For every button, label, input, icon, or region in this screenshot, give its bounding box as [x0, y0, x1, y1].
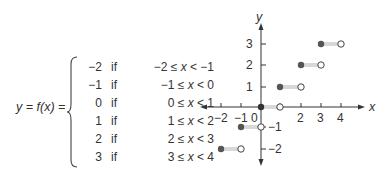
x-tick-label: 2	[297, 111, 304, 125]
arrow-left-icon	[200, 105, 207, 110]
segment	[218, 146, 244, 152]
segment	[277, 84, 304, 90]
y-axis-label: y	[255, 10, 263, 24]
step-segments	[218, 41, 344, 152]
x-tick-label: 4	[337, 111, 344, 125]
x-tick-label: −2	[214, 111, 228, 125]
y-tick-label: 1	[246, 80, 253, 94]
x-tick-label: 3	[317, 111, 324, 125]
y-tick-label: 2	[246, 58, 253, 72]
y-axis	[259, 23, 267, 166]
segment	[258, 104, 283, 110]
y-tick-label: 3	[246, 37, 253, 51]
arrow-right-icon	[358, 105, 365, 110]
arrow-up-icon	[259, 23, 264, 30]
x-tick-label: 0	[251, 111, 258, 125]
y-tick-label: −2	[268, 142, 282, 156]
segment	[298, 62, 324, 68]
segment	[318, 41, 344, 47]
x-axis-label: x	[368, 100, 376, 114]
y-tick-label: −1	[268, 120, 282, 134]
arrow-down-icon	[259, 159, 264, 166]
x-tick-label: −1	[234, 111, 248, 125]
step-function-graph: x y −2 −1 0 2 3 4 3 2 1 −1 −2	[0, 0, 389, 177]
